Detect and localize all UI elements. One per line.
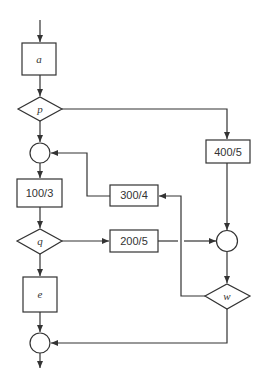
flowchart-diagram: a p 100/3 q e 300/4 200/5 400/5 w xyxy=(0,0,266,388)
node-100-3: 100/3 xyxy=(17,179,62,207)
junction-3 xyxy=(30,333,50,353)
node-200-5: 200/5 xyxy=(110,230,158,252)
node-200-5-label: 200/5 xyxy=(120,235,148,247)
node-300-4-label: 300/4 xyxy=(120,189,148,201)
edge-p-400 xyxy=(62,109,227,139)
decision-q-label: q xyxy=(37,235,43,247)
node-300-4: 300/4 xyxy=(110,185,158,206)
node-a-label: a xyxy=(36,53,42,65)
decision-p: p xyxy=(18,97,62,121)
node-e-label: e xyxy=(38,288,43,300)
junction-1 xyxy=(30,143,50,163)
junction-2 xyxy=(217,231,238,252)
decision-p-label: p xyxy=(36,103,43,115)
edge-w-300 xyxy=(159,196,205,296)
decision-q: q xyxy=(17,229,62,254)
node-400-5: 400/5 xyxy=(206,140,250,163)
node-a: a xyxy=(22,43,56,75)
node-e: e xyxy=(23,277,57,312)
edge-w-junction3 xyxy=(51,309,227,343)
node-400-5-label: 400/5 xyxy=(214,146,242,158)
decision-w-label: w xyxy=(223,290,231,302)
decision-w: w xyxy=(205,284,250,309)
node-100-3-label: 100/3 xyxy=(26,187,54,199)
